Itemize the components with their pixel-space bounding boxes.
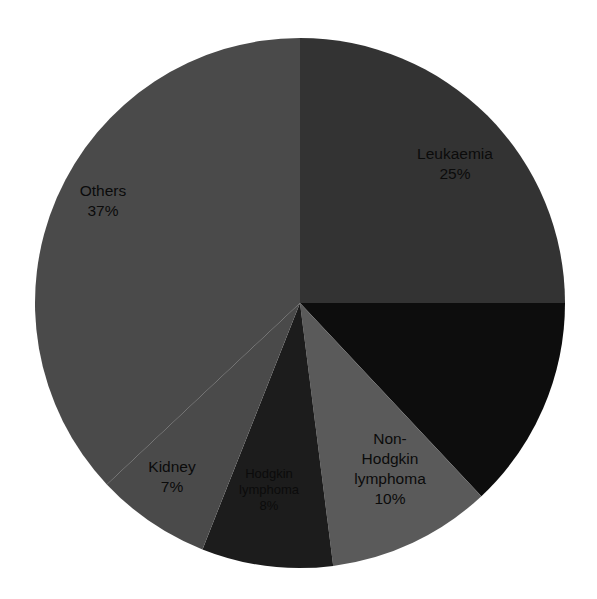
slice-label-line: Kidney	[148, 458, 196, 475]
pie-chart-svg: Leukaemia25%Non-Hodgkinlymphoma10%Hodgki…	[0, 0, 597, 599]
slice-label-line: Leukaemia	[417, 145, 493, 162]
pie-slices-group	[35, 38, 565, 568]
slice-label-line: 8%	[260, 498, 279, 513]
slice-label-line: 10%	[374, 490, 405, 507]
slice-label-line: lymphoma	[354, 470, 426, 487]
pie-chart-figure: Leukaemia25%Non-Hodgkinlymphoma10%Hodgki…	[0, 0, 597, 599]
slice-label-line: 25%	[439, 165, 470, 182]
slice-label-line: Hodgkin	[362, 450, 419, 467]
slice-label-line: Others	[80, 182, 127, 199]
slice-label-line: Hodgkin	[245, 466, 293, 481]
slice-label-line: lymphoma	[239, 482, 300, 497]
slice-label-line: 7%	[161, 478, 184, 495]
slice-label-line: Non-	[373, 430, 407, 447]
slice-label-line: 37%	[87, 202, 118, 219]
